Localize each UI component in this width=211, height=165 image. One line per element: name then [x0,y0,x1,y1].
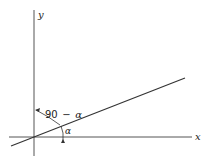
alpha-angle-label: α [65,126,71,136]
x-axis-label: x [195,131,201,142]
arrowhead-up-icon [61,139,65,143]
y-axis-label: y [37,9,44,20]
angled-line [11,78,185,146]
complement-angle-label: 90 − α [45,109,82,120]
diagram-canvas: y x 90 − α α [0,0,211,165]
